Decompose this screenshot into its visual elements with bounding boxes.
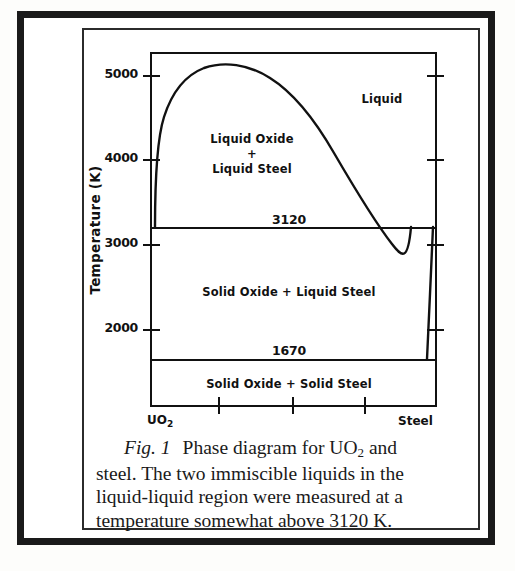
y-tick-label-2000: 2000 (100, 320, 138, 335)
y-tick-label-3000: 3000 (100, 235, 138, 250)
caption-figure-number: Fig. 1 (96, 437, 183, 458)
isotherm-3120-label: 3120 (272, 212, 306, 227)
isotherm-1670-label: 1670 (272, 343, 306, 358)
figure-page: Temperature (K) (0, 0, 515, 571)
y-tick-label-4000: 4000 (100, 150, 138, 165)
x-left-label-subscript: 2 (167, 419, 173, 429)
caption-line-1: Fig. 1Phase diagram for UO2 and (96, 436, 446, 462)
liquid-region-label: Liquid (361, 92, 402, 106)
x-axis-left-endpoint-label: UO2 (147, 413, 173, 427)
plot-inner-area: Temperature (K) (152, 54, 435, 405)
plus-sign-label: + (247, 147, 257, 161)
caption-line1-text: Phase diagram for UO (183, 437, 358, 458)
solid-oxide-solid-steel-label: Solid Oxide + Solid Steel (206, 377, 372, 391)
y-axis-title: Temperature (K) (87, 165, 103, 294)
liquid-steel-label: Liquid Steel (212, 162, 292, 176)
x-left-label-text: UO (147, 413, 167, 427)
figure-caption: Fig. 1Phase diagram for UO2 and steel. T… (96, 436, 446, 532)
phase-diagram-plot: Temperature (K) (150, 52, 437, 407)
y-tick-label-5000: 5000 (100, 66, 138, 81)
caption-uo2-subscript: 2 (358, 445, 365, 460)
solid-oxide-liquid-steel-label: Solid Oxide + Liquid Steel (202, 285, 376, 299)
liquid-oxide-label: Liquid Oxide (210, 132, 293, 146)
x-axis-right-endpoint-label: Steel (398, 414, 433, 428)
caption-line1-tail: and (364, 437, 397, 458)
steel-liquidus-path (427, 227, 433, 359)
caption-remaining-text: steel. The two immiscible liquids in the… (96, 462, 446, 533)
